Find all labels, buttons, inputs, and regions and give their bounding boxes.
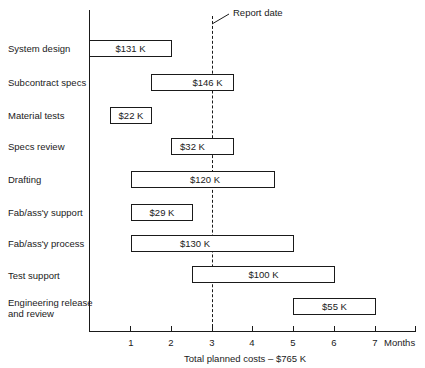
task-label: Test support bbox=[8, 270, 60, 281]
x-tick-label: 5 bbox=[290, 337, 295, 348]
task-cost: $100 K bbox=[248, 269, 278, 280]
x-tick bbox=[130, 326, 131, 332]
report-date-label: Report date bbox=[233, 7, 283, 18]
x-tick-label: 1 bbox=[128, 337, 133, 348]
task-bar: $100 K bbox=[192, 266, 335, 283]
task-bar: $32 K bbox=[171, 138, 234, 155]
task-cost: $120 K bbox=[190, 174, 220, 185]
x-unit-label: Months bbox=[384, 337, 415, 348]
task-cost: $146 K bbox=[192, 77, 222, 88]
task-label: Specs review bbox=[8, 141, 65, 152]
task-label: Fab/ass'y process bbox=[8, 238, 84, 249]
x-tick bbox=[293, 326, 294, 332]
x-tick bbox=[252, 326, 253, 332]
task-bar: $22 K bbox=[110, 107, 152, 124]
task-cost: $32 K bbox=[180, 141, 205, 152]
x-tick-label: 7 bbox=[372, 337, 377, 348]
x-tick bbox=[334, 326, 335, 332]
x-tick-label: 3 bbox=[209, 337, 214, 348]
x-tick bbox=[415, 326, 416, 332]
task-label: Drafting bbox=[8, 174, 41, 185]
y-axis bbox=[89, 10, 90, 332]
x-tick-label: 4 bbox=[249, 337, 254, 348]
task-cost: $130 K bbox=[180, 238, 210, 249]
task-bar: $146 K bbox=[151, 74, 234, 91]
task-cost: $22 K bbox=[119, 110, 144, 121]
report-date-leader bbox=[210, 10, 232, 26]
task-bar: $55 K bbox=[293, 298, 376, 315]
task-cost: $55 K bbox=[322, 301, 347, 312]
task-label: System design bbox=[8, 43, 70, 54]
task-label: Material tests bbox=[8, 110, 65, 121]
x-tick-label: 6 bbox=[331, 337, 336, 348]
x-tick-label: 2 bbox=[168, 337, 173, 348]
task-label: Subcontract specs bbox=[8, 77, 86, 88]
x-tick bbox=[171, 326, 172, 332]
x-tick bbox=[375, 326, 376, 332]
task-label: and review bbox=[8, 308, 54, 319]
task-bar: $131 K bbox=[89, 40, 172, 57]
task-cost: $29 K bbox=[150, 207, 175, 218]
x-axis-title: Total planned costs – $765 K bbox=[184, 353, 306, 364]
task-bar: $120 K bbox=[131, 171, 275, 188]
task-label: Fab/ass'y support bbox=[8, 207, 83, 218]
x-tick bbox=[212, 326, 213, 332]
task-bar: $29 K bbox=[131, 204, 193, 221]
task-bar: $130 K bbox=[131, 235, 294, 252]
task-cost: $131 K bbox=[115, 43, 145, 54]
task-label: Engineering release bbox=[8, 297, 93, 308]
